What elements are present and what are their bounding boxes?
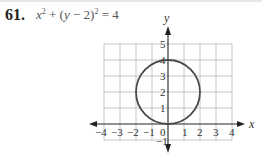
y-tick: −1 <box>156 135 168 147</box>
y-axis-up-arrow-icon <box>165 26 171 35</box>
x-tick: 3 <box>213 126 219 138</box>
y-tick: 5 <box>160 38 166 50</box>
y-tick: 1 <box>160 102 166 114</box>
x-tick: 4 <box>229 126 235 138</box>
x-tick: −2 <box>127 126 139 138</box>
y-axis-label: y <box>163 11 170 25</box>
circle-graph: x y −4 −3 −2 −1 0 1 2 3 4 5 4 3 2 1 −1 <box>0 0 262 154</box>
y-tick: 3 <box>160 70 166 82</box>
x-tick: 2 <box>197 126 203 138</box>
x-axis-label: x <box>248 117 255 131</box>
x-tick: 1 <box>182 126 188 138</box>
x-tick: −1 <box>143 126 155 138</box>
y-tick: 4 <box>160 54 166 66</box>
x-tick: −4 <box>95 126 107 138</box>
x-axis-right-arrow-icon <box>237 121 245 127</box>
y-tick: 2 <box>160 86 166 98</box>
x-tick: −3 <box>111 126 123 138</box>
